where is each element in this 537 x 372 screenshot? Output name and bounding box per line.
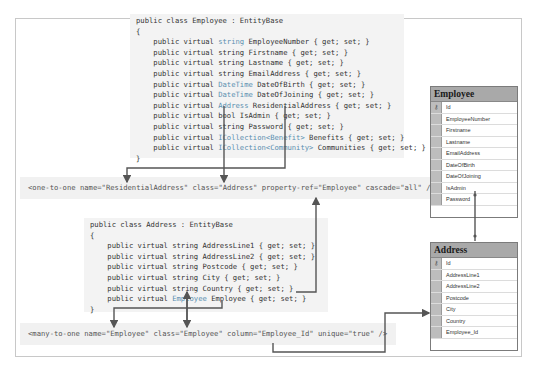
table-row: Lastname [431, 137, 517, 149]
table-row: ⚷Id [431, 258, 517, 270]
table-row: EmployeeNumber [431, 114, 517, 126]
code-line: public virtual ICollection<Community> Co… [136, 143, 398, 154]
table-row: EmailAddress [431, 148, 517, 160]
table-row: DateOfBirth [431, 160, 517, 172]
table-row: ⚷Id [431, 102, 517, 114]
employee-class-code: public class Employee : EntityBase{ publ… [130, 14, 404, 158]
code-line: public virtual string City { get; set; } [90, 273, 322, 284]
close-brace: } [90, 305, 322, 316]
many-to-one-mapping: <many-to-one name="Employee" class="Empl… [20, 323, 396, 345]
table-row: Postcode [431, 293, 517, 305]
table-title: Address [431, 243, 517, 258]
table-row: IsAdmin [431, 183, 517, 195]
key-icon: ⚷ [431, 258, 442, 269]
code-line: public virtual ICollection<Benefit> Bene… [136, 133, 398, 144]
code-line: public virtual DateTime DateOfJoining { … [136, 90, 398, 101]
code-line: public virtual string Postcode { get; se… [90, 262, 322, 273]
table-row: Password [431, 194, 517, 206]
address-table: Address ⚷Id AddressLine1 AddressLine2 Po… [430, 242, 518, 351]
table-row: City [431, 304, 517, 316]
code-line: public virtual string AddressLine2 { get… [90, 252, 322, 263]
code-line: public virtual string AddressLine1 { get… [90, 241, 322, 252]
code-line: public virtual string EmailAddress { get… [136, 69, 398, 80]
code-line: public virtual string EmployeeNumber { g… [136, 37, 398, 48]
code-line: public virtual DateTime DateOfBirth { ge… [136, 80, 398, 91]
open-brace: { [90, 231, 322, 242]
table-row: Country [431, 316, 517, 328]
code-line: public virtual Employee Employee { get; … [90, 294, 322, 305]
one-to-one-mapping: <one-to-one name="ResidentialAddress" cl… [20, 177, 436, 199]
table-row: AddressLine1 [431, 270, 517, 282]
class-header: public class Employee : EntityBase [136, 16, 398, 27]
address-class-code: public class Address : EntityBase{ publi… [84, 218, 328, 312]
code-line: public virtual bool IsAdmin { get; set; … [136, 111, 398, 122]
code-line: public virtual string Password { get; se… [136, 122, 398, 133]
close-brace: } [136, 154, 398, 165]
table-row: AddressLine2 [431, 281, 517, 293]
class-header: public class Address : EntityBase [90, 220, 322, 231]
code-line: public virtual string Country { get; set… [90, 284, 322, 295]
open-brace: { [136, 27, 398, 38]
code-line: public virtual Address ResidentialAddres… [136, 101, 398, 112]
table-title: Employee [431, 87, 517, 102]
table-row: DateOfJoining [431, 171, 517, 183]
table-row: Firstname [431, 125, 517, 137]
table-row: Employee_Id [431, 327, 517, 339]
key-icon: ⚷ [431, 102, 442, 113]
code-line: public virtual string Lastname { get; se… [136, 58, 398, 69]
employee-table: Employee ⚷Id EmployeeNumber Firstname La… [430, 86, 518, 218]
code-line: public virtual string Firstname { get; s… [136, 48, 398, 59]
